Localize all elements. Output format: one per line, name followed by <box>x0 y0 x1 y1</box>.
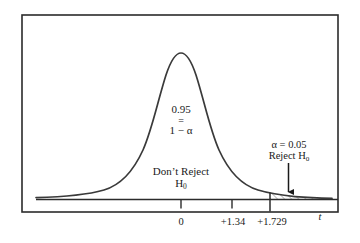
confidence-expression: 1 − α <box>170 125 193 137</box>
reject-subscript: 0 <box>306 155 310 163</box>
hypothesis-subscript: 0 <box>183 182 187 191</box>
dont-reject-annotation: Don’t Reject H0 <box>153 166 209 189</box>
reject-text: Reject H <box>269 150 306 161</box>
axis-variable-label: t <box>319 211 322 222</box>
reject-hypothesis-label: Reject H0 <box>269 150 310 161</box>
dont-reject-hypothesis: H0 <box>153 178 209 190</box>
tick-label-critical-value: +1.729 <box>257 216 287 227</box>
tick-label-zero: 0 <box>178 216 183 227</box>
t-distribution-figure: 0.95 = 1 − α Don’t Reject H0 α = 0.05 Re… <box>0 0 360 243</box>
rejection-region-annotation: α = 0.05 Reject H0 <box>269 139 310 162</box>
confidence-value: 0.95 <box>170 104 193 116</box>
tick-label-test-statistic: +1.34 <box>221 216 245 227</box>
confidence-level-annotation: 0.95 = 1 − α <box>170 104 193 137</box>
alpha-level-label: α = 0.05 <box>269 139 310 150</box>
